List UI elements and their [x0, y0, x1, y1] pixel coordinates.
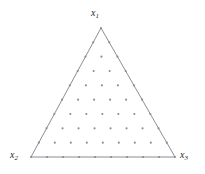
- lattice-point: [86, 142, 88, 144]
- lattice-point: [69, 113, 71, 115]
- lattice-point: [85, 113, 87, 115]
- lattice-point: [126, 127, 128, 129]
- lattice-point: [158, 156, 160, 158]
- vertex-label-x2-sub: 2: [14, 154, 18, 162]
- lattice-point: [93, 99, 95, 101]
- lattice-point: [158, 127, 160, 129]
- lattice-point: [133, 113, 135, 115]
- lattice-point: [38, 142, 40, 144]
- lattice-point: [134, 142, 136, 144]
- lattice-point: [46, 156, 48, 158]
- lattice-point: [117, 84, 119, 86]
- lattice-point: [142, 127, 144, 129]
- vertex-label-x1-sub: 1: [95, 12, 99, 20]
- lattice-point: [62, 127, 64, 129]
- lattice-point: [110, 127, 112, 129]
- lattice-point: [133, 84, 135, 86]
- lattice-point: [150, 142, 152, 144]
- simplex-plot: [0, 0, 205, 174]
- lattice-point: [125, 70, 127, 72]
- lattice-point: [166, 142, 168, 144]
- lattice-point: [94, 127, 96, 129]
- lattice-point: [125, 99, 127, 101]
- lattice-point: [46, 127, 48, 129]
- lattice-point: [109, 70, 111, 72]
- lattice-point: [69, 84, 71, 86]
- lattice-point: [109, 99, 111, 101]
- lattice-point: [108, 41, 110, 43]
- lattice-point: [102, 142, 104, 144]
- lattice-point: [118, 142, 120, 144]
- lattice-point: [30, 156, 32, 158]
- lattice-point: [77, 99, 79, 101]
- lattice-point: [61, 99, 63, 101]
- lattice-point: [100, 27, 102, 29]
- lattice-point: [94, 156, 96, 158]
- lattice-point: [117, 113, 119, 115]
- plot-background: [0, 0, 205, 174]
- vertex-label-x1: x1: [91, 8, 99, 18]
- lattice-point: [174, 156, 176, 158]
- lattice-point: [77, 70, 79, 72]
- lattice-point: [78, 156, 80, 158]
- lattice-point: [84, 56, 86, 58]
- lattice-point: [141, 99, 143, 101]
- lattice-point: [54, 142, 56, 144]
- lattice-point: [93, 70, 95, 72]
- lattice-point: [101, 84, 103, 86]
- lattice-point: [62, 156, 64, 158]
- lattice-point: [70, 142, 72, 144]
- vertex-label-x2: x2: [10, 150, 18, 160]
- lattice-point: [92, 41, 94, 43]
- lattice-point: [85, 84, 87, 86]
- lattice-point: [142, 156, 144, 158]
- lattice-point: [100, 56, 102, 58]
- lattice-point: [116, 56, 118, 58]
- lattice-point: [126, 156, 128, 158]
- vertex-label-x3: x3: [180, 150, 188, 160]
- vertex-label-x3-sub: 3: [184, 154, 188, 162]
- lattice-point: [149, 113, 151, 115]
- lattice-point: [110, 156, 112, 158]
- figure-root: x1 x2 x3: [0, 0, 205, 174]
- lattice-point: [101, 113, 103, 115]
- lattice-point: [78, 127, 80, 129]
- lattice-point: [53, 113, 55, 115]
